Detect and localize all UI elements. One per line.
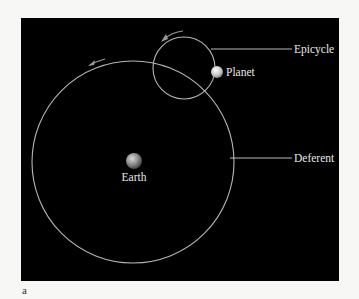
diagram-panel xyxy=(21,18,339,281)
earth-sphere xyxy=(126,153,142,169)
epicycle-label: Epicycle xyxy=(294,43,334,56)
planet-label: Planet xyxy=(226,66,256,78)
deferent-epicycle-diagram: Epicycle Planet Deferent Earth a xyxy=(0,0,359,299)
deferent-label: Deferent xyxy=(294,152,335,164)
earth-label: Earth xyxy=(122,171,147,183)
panel-label: a xyxy=(22,284,27,296)
planet-sphere xyxy=(211,66,223,78)
